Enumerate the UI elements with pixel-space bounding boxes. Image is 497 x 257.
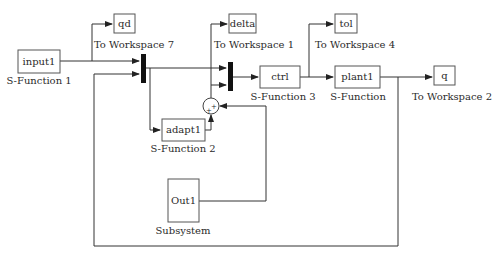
block-delta-text: delta (230, 18, 256, 29)
signal-sum-to-delta[interactable] (211, 24, 227, 99)
signal-ctrl-to-tol[interactable] (309, 24, 333, 77)
block-tol-text: tol (339, 18, 352, 29)
block-delta[interactable]: delta To Workspace 1 (214, 14, 294, 50)
block-qd-caption: To Workspace 7 (94, 39, 174, 50)
block-subsystem[interactable]: Out1 Subsystem (155, 179, 211, 236)
block-mux2[interactable] (228, 62, 233, 91)
block-ctrl-text: ctrl (271, 71, 289, 82)
block-q[interactable]: q To Workspace 2 (412, 66, 492, 102)
block-subsystem-text: Out1 (171, 195, 196, 206)
block-plant1-text: plant1 (341, 71, 373, 82)
sum-sign-bottom: + (206, 107, 212, 115)
signal-lines (60, 24, 432, 246)
block-ctrl[interactable]: ctrl S-Function 3 (250, 66, 315, 102)
block-plant1-caption: S-Function (330, 91, 386, 102)
block-adapt1[interactable]: adapt1 S-Function 2 (150, 119, 215, 154)
block-q-caption: To Workspace 2 (412, 91, 492, 102)
signal-adapt1-to-sum[interactable] (205, 115, 211, 130)
block-tol[interactable]: tol To Workspace 4 (315, 14, 395, 50)
block-delta-caption: To Workspace 1 (214, 39, 294, 50)
block-qd[interactable]: qd To Workspace 7 (94, 14, 174, 50)
block-mux1[interactable] (141, 54, 146, 83)
block-subsystem-caption: Subsystem (155, 225, 211, 236)
sum-sign-right: + (211, 103, 217, 111)
block-input1-text: input1 (23, 56, 56, 67)
block-input1[interactable]: input1 S-Function 1 (6, 50, 71, 86)
block-adapt1-caption: S-Function 2 (150, 143, 215, 154)
block-qd-text: qd (118, 18, 131, 29)
block-adapt1-text: adapt1 (166, 124, 201, 135)
block-sum[interactable]: + + (203, 98, 219, 115)
signal-mux1-to-adapt1[interactable] (150, 68, 160, 130)
block-ctrl-caption: S-Function 3 (250, 91, 315, 102)
block-q-text: q (441, 70, 448, 81)
block-plant1[interactable]: plant1 S-Function (330, 66, 386, 102)
diagram-canvas: input1 S-Function 1 qd To Workspace 7 de… (0, 0, 497, 257)
block-input1-caption: S-Function 1 (6, 75, 71, 86)
block-tol-caption: To Workspace 4 (315, 39, 395, 50)
